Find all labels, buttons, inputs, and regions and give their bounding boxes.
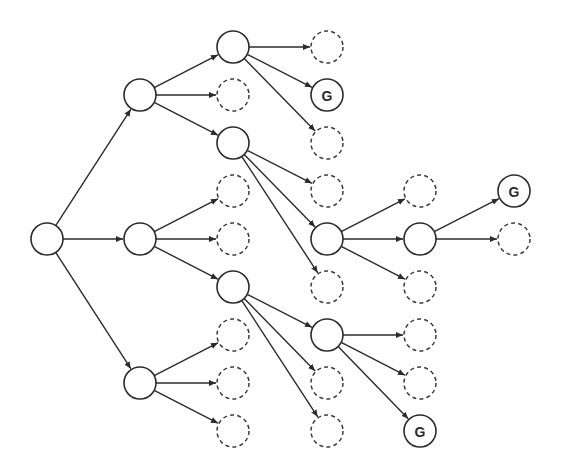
- node-circle: [311, 271, 343, 303]
- unexplored-node: [498, 223, 530, 255]
- edge-arrow: [242, 156, 318, 272]
- node-circle: [311, 367, 343, 399]
- unexplored-node: [217, 79, 249, 111]
- node-circle: [217, 223, 249, 255]
- tree-node: [217, 127, 249, 159]
- node-circle: [124, 223, 156, 255]
- node-circle: [404, 223, 436, 255]
- edge-arrow: [154, 55, 218, 88]
- node-circle: [498, 223, 530, 255]
- node-circle: [217, 319, 249, 351]
- unexplored-node: [404, 175, 436, 207]
- tree-node: [217, 31, 249, 63]
- edge-arrow: [242, 300, 318, 416]
- unexplored-node: [311, 127, 343, 159]
- node-circle: [217, 79, 249, 111]
- edge-arrow: [154, 390, 218, 423]
- unexplored-node: [217, 175, 249, 207]
- node-circle: [124, 79, 156, 111]
- node-circle: [311, 127, 343, 159]
- unexplored-node: [311, 175, 343, 207]
- goal-node: G: [311, 79, 343, 111]
- unexplored-node: [217, 367, 249, 399]
- unexplored-node: [404, 271, 436, 303]
- tree-node: [217, 271, 249, 303]
- edge-arrow: [154, 343, 218, 376]
- node-circle: [311, 31, 343, 63]
- node-circle: [217, 31, 249, 63]
- node-circle: [217, 127, 249, 159]
- node-circle: [217, 175, 249, 207]
- node-circle: [31, 223, 63, 255]
- node-circle: [404, 175, 436, 207]
- edge-arrow: [434, 199, 499, 232]
- edge-arrow: [56, 252, 131, 368]
- goal-label: G: [322, 88, 333, 104]
- unexplored-node: [311, 271, 343, 303]
- node-circle: [311, 223, 343, 255]
- node-circle: [311, 175, 343, 207]
- unexplored-node: [217, 319, 249, 351]
- node-circle: [124, 367, 156, 399]
- edge-arrow: [244, 298, 315, 371]
- node-circle: [217, 271, 249, 303]
- unexplored-node: [404, 319, 436, 351]
- edge-arrow: [154, 102, 218, 135]
- unexplored-node: [311, 415, 343, 447]
- node-circle: [217, 415, 249, 447]
- node-circle: [311, 319, 343, 351]
- unexplored-node: [311, 31, 343, 63]
- tree-node: [124, 367, 156, 399]
- tree-node: [124, 223, 156, 255]
- edge-arrow: [338, 347, 408, 419]
- search-tree-diagram: GGG: [0, 0, 562, 476]
- tree-node: [124, 79, 156, 111]
- unexplored-node: [217, 415, 249, 447]
- unexplored-node: [404, 367, 436, 399]
- node-circle: [404, 367, 436, 399]
- edge-arrow: [244, 58, 315, 130]
- tree-node: [311, 319, 343, 351]
- goal-label: G: [509, 184, 520, 200]
- unexplored-node: [311, 367, 343, 399]
- tree-node: [31, 223, 63, 255]
- goal-label: G: [415, 424, 426, 440]
- goal-node: G: [404, 415, 436, 447]
- edge-arrow: [341, 246, 405, 279]
- node-circle: [404, 271, 436, 303]
- goal-node: G: [498, 175, 530, 207]
- node-circle: [404, 319, 436, 351]
- edge-arrow: [154, 246, 218, 279]
- edge-arrow: [154, 199, 218, 232]
- edge-arrow: [341, 199, 405, 232]
- edge-arrow: [56, 109, 131, 225]
- tree-node: [311, 223, 343, 255]
- node-circle: [311, 415, 343, 447]
- tree-node: [404, 223, 436, 255]
- edge-arrow: [244, 154, 315, 227]
- unexplored-node: [217, 223, 249, 255]
- node-circle: [217, 367, 249, 399]
